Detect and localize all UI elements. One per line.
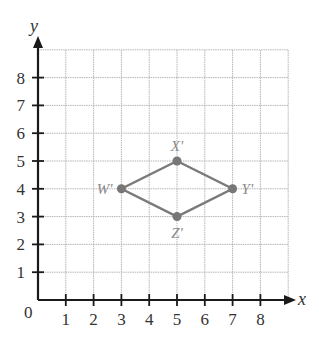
vertex-label: W': [97, 181, 113, 197]
vertex-point: [228, 184, 237, 193]
vertex-label: Z': [171, 225, 183, 241]
y-axis-arrow-icon: [33, 36, 43, 48]
vertex-point: [117, 184, 126, 193]
y-tick-label: 6: [17, 124, 26, 143]
y-tick-label: 7: [17, 96, 26, 115]
vertex-label: X': [170, 138, 184, 154]
axes: [33, 36, 296, 305]
x-axis-arrow-icon: [284, 295, 296, 305]
x-tick-label: 6: [201, 310, 210, 329]
y-tick-label: 8: [17, 69, 26, 88]
origin-label: 0: [24, 303, 33, 322]
y-axis-label: y: [28, 16, 38, 36]
coordinate-plane: 1234567812345678 X'Y'Z'W' x y 0: [0, 0, 319, 348]
x-axis-label: x: [297, 289, 306, 309]
x-tick-label: 2: [89, 310, 98, 329]
y-tick-label: 3: [17, 208, 26, 227]
y-tick-label: 2: [17, 235, 26, 254]
x-tick-label: 7: [228, 310, 237, 329]
x-tick-label: 1: [62, 310, 71, 329]
x-tick-label: 8: [256, 310, 265, 329]
vertex-label: Y': [242, 181, 254, 197]
rhombus-shape: X'Y'Z'W': [97, 138, 254, 241]
x-tick-label: 3: [117, 310, 126, 329]
x-tick-label: 5: [173, 310, 182, 329]
x-tick-label: 4: [145, 310, 154, 329]
grid-lines: [38, 50, 288, 300]
y-tick-label: 5: [17, 152, 26, 171]
vertex-point: [173, 157, 182, 166]
y-tick-label: 4: [17, 180, 26, 199]
y-tick-label: 1: [17, 263, 26, 282]
vertex-point: [173, 212, 182, 221]
